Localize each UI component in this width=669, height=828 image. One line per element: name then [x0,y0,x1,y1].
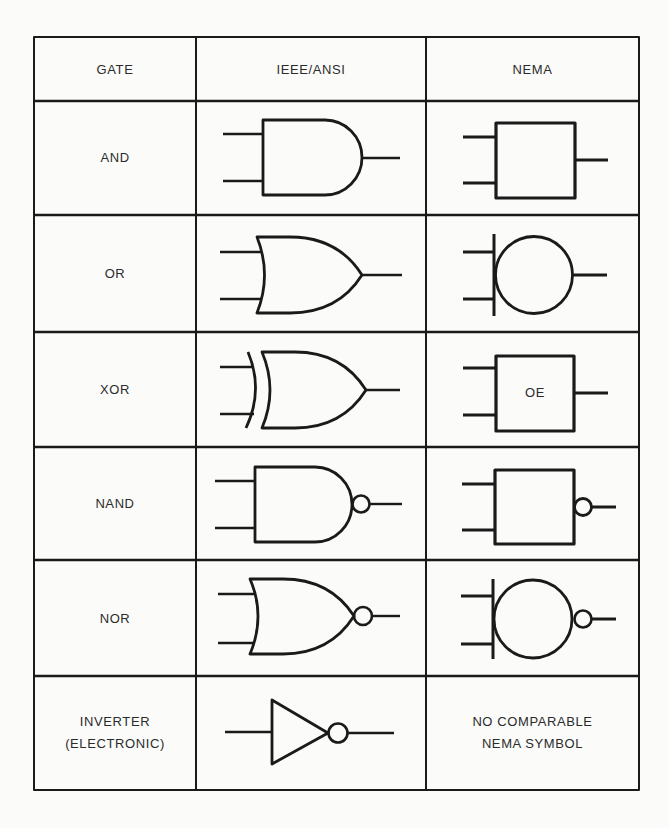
nema-nand-gate-icon [462,470,616,544]
ieee-and-gate-icon [223,120,400,195]
nema-or-gate-icon [463,234,607,316]
ieee-inverter-icon [225,700,394,764]
ieee-nand-gate-icon [215,467,402,542]
gate-name-or: OR [34,264,196,284]
nema-nor-gate-icon [461,579,616,659]
ieee-nor-gate-icon [218,579,400,654]
gate-name-nor: NOR [34,609,196,629]
gate-name-inverter: INVERTER [34,712,196,732]
gate-name-inverter-qualifier: (ELECTRONIC) [34,734,196,754]
nema-inverter-note-line2: NEMA SYMBOL [426,734,639,754]
header-ieee-ansi: IEEE/ANSI [196,60,426,80]
gate-name-and: AND [34,148,196,168]
gate-name-xor: XOR [34,380,196,400]
nema-and-gate-icon [463,123,608,198]
nema-inverter-note-line1: NO COMPARABLE [426,712,639,732]
ieee-xor-gate-icon [220,352,400,428]
nema-xor-label: OE [496,383,574,403]
logic-gate-symbol-table [0,0,669,828]
header-gate: GATE [34,60,196,80]
header-nema: NEMA [426,60,639,80]
ieee-or-gate-icon [220,237,402,313]
gate-name-nand: NAND [34,494,196,514]
